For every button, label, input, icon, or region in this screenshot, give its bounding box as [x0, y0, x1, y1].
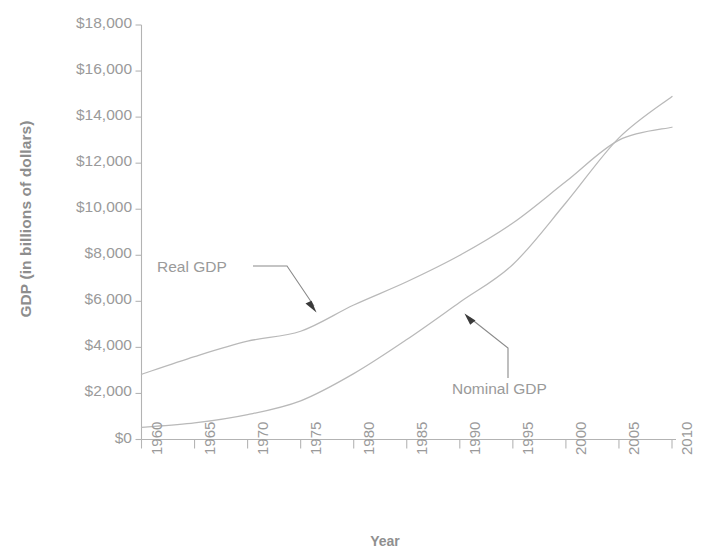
x-axis-tick-label: 1990: [466, 395, 483, 455]
x-axis-tick-labels: 1960196519701975198019851990199520002005…: [0, 0, 723, 556]
x-axis-tick-label: 1965: [201, 395, 218, 455]
x-axis-tick-label: 1975: [307, 395, 324, 455]
x-axis-tick-label: 1985: [413, 395, 430, 455]
x-axis-tick-label: 2010: [678, 395, 695, 455]
x-axis-tick-label: 2000: [572, 395, 589, 455]
x-axis-tick-label: 1980: [360, 395, 377, 455]
annotation-label-nominal-gdp: Nominal GDP: [452, 380, 547, 398]
gdp-line-chart: $0$2,000$4,000$6,000$8,000$10,000$12,000…: [0, 0, 723, 556]
x-axis-tick-label: 2005: [625, 395, 642, 455]
x-axis-tick-label: 1995: [519, 395, 536, 455]
annotation-label-real-gdp: Real GDP: [157, 258, 227, 276]
x-axis-tick-label: 1960: [148, 395, 165, 455]
x-axis-tick-label: 1970: [254, 395, 271, 455]
y-axis-title: GDP (in billions of dollars): [17, 89, 35, 349]
x-axis-title: Year: [340, 533, 430, 549]
